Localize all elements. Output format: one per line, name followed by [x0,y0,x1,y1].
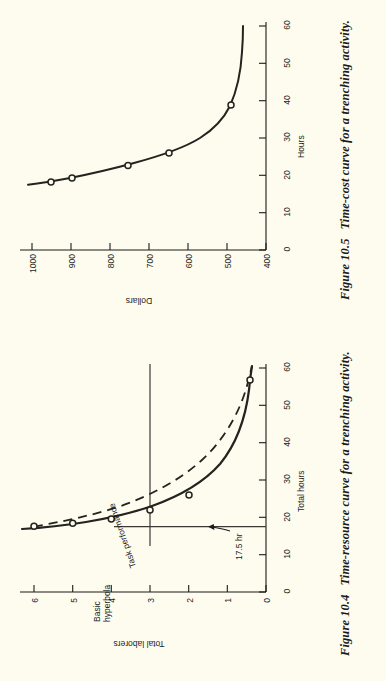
figure-10-4: 0 10 20 30 40 50 60 0 1 2 3 4 5 6 Total … [0,340,386,678]
figure-10-5-caption-text: Time-cost curve for a trenching activity… [338,20,352,229]
fig105-xtick-10: 10 [282,205,292,219]
figure-10-4-caption-number: Figure 10.4 [338,594,352,656]
fig105-xtick-50: 50 [282,56,292,70]
fig104-xtick-10: 10 [282,547,292,561]
fig105-y-axis-title: Dollars [126,296,152,306]
figure-10-4-caption: Figure 10.4Time-resource curve for a tre… [338,351,353,656]
fig105-ytick-1000: 1000 [28,254,38,282]
figure-10-4-caption-text: Time-resource curve for a trenching acti… [338,351,352,585]
fig105-xtick-60: 60 [282,18,292,32]
fig104-label-basic-hyperbola: Basic hyperbola [92,576,112,622]
fig105-ytick-700: 700 [145,254,155,278]
fig105-xtick-20: 20 [282,168,292,182]
fig104-xtick-0: 0 [282,584,292,598]
book-page: 0 10 20 30 40 50 60 400 500 600 700 800 … [0,0,386,681]
fig105-xtick-0: 0 [282,242,292,256]
figure-10-5-caption-number: Figure 10.5 [338,238,352,300]
fig104-ytick-1: 1 [223,598,233,620]
figure-10-5-caption: Figure 10.5Time-cost curve for a trenchi… [338,20,353,300]
figure-10-4-plot [14,358,286,626]
fig104-ytick-2: 2 [185,598,195,620]
fig104-xtick-60: 60 [282,360,292,374]
fig105-ytick-500: 500 [223,254,233,278]
fig104-label-basic-hyperbola-text: Basic hyperbola [92,585,112,622]
fig105-ytick-800: 800 [106,254,116,278]
fig104-ytick-5: 5 [69,598,79,620]
fig104-ytick-6: 6 [30,598,40,620]
fig105-ytick-400: 400 [262,254,272,278]
fig105-ytick-900: 900 [67,254,77,278]
fig104-ytick-3: 3 [146,598,156,620]
fig104-annotation-17-5-hr: 17.5 hr [234,534,244,560]
fig104-x-axis-title: Total hours [296,470,306,512]
fig104-ytick-0: 0 [262,598,272,620]
fig104-xtick-30: 30 [282,472,292,486]
figure-10-5: 0 10 20 30 40 50 60 400 500 600 700 800 … [0,0,386,336]
fig105-x-axis-title: Hours [296,135,306,158]
fig104-xtick-50: 50 [282,398,292,412]
fig104-xtick-20: 20 [282,510,292,524]
fig105-ytick-600: 600 [184,254,194,278]
fig105-xtick-40: 40 [282,93,292,107]
fig105-xtick-30: 30 [282,130,292,144]
figure-10-5-plot [14,16,286,284]
fig104-xtick-40: 40 [282,435,292,449]
fig104-y-axis-title: Total laborers [113,639,164,649]
